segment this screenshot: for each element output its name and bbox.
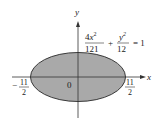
svg-text:11: 11 bbox=[126, 78, 134, 87]
y-axis-label: y bbox=[74, 7, 79, 17]
svg-text:12: 12 bbox=[117, 44, 126, 54]
svg-text:2: 2 bbox=[22, 88, 26, 97]
svg-text:−: − bbox=[12, 80, 17, 90]
x-axis-label: x bbox=[146, 72, 151, 82]
svg-text:11: 11 bbox=[20, 78, 28, 87]
svg-text:121: 121 bbox=[85, 44, 99, 54]
left-intercept-label: − 11 2 bbox=[12, 78, 29, 97]
svg-text:2: 2 bbox=[128, 88, 132, 97]
svg-text:4x2: 4x2 bbox=[85, 31, 97, 42]
svg-text:y2: y2 bbox=[118, 31, 126, 42]
x-axis-arrow-icon bbox=[140, 75, 146, 79]
ellipse-diagram: x y 0 4x2 121 + y2 12 = 1 − 11 2 11 2 bbox=[0, 0, 160, 126]
y-axis-arrow-icon bbox=[76, 21, 80, 27]
origin-label: 0 bbox=[67, 80, 72, 90]
svg-text:+: + bbox=[108, 38, 113, 48]
ellipse-equation: 4x2 121 + y2 12 = 1 bbox=[85, 31, 145, 54]
right-intercept-label: 11 2 bbox=[125, 78, 135, 97]
svg-text:= 1: = 1 bbox=[133, 38, 145, 48]
